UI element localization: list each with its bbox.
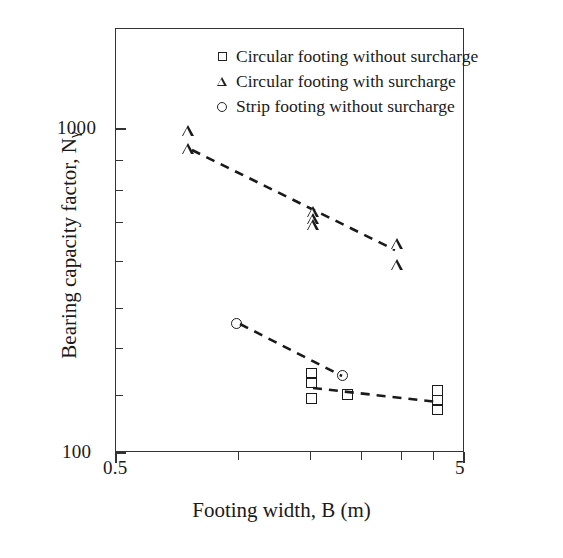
y-axis-title-subscript: γ (66, 131, 82, 138)
data-point-square (306, 377, 317, 388)
y-tick-minor-800 (115, 160, 123, 161)
circle-marker-icon (216, 100, 229, 113)
y-tick-minor-300 (115, 348, 123, 349)
triangle-marker-icon (216, 75, 229, 88)
x-axis-tick-label-0point5: 0.5 (103, 457, 128, 479)
data-point-square (432, 404, 443, 415)
x-axis-title: Footing width, B (m) (0, 498, 563, 523)
y-tick-minor-600 (115, 222, 123, 223)
data-point-square (306, 393, 317, 404)
data-point-circle (231, 318, 242, 329)
data-point-triangle (182, 125, 194, 136)
legend-item-strip-without-surcharge: Strip footing without surcharge (216, 94, 478, 119)
legend: Circular footing without surcharge Circu… (216, 44, 478, 119)
y-tick-minor-500 (115, 261, 123, 262)
x-tick-4point5 (433, 452, 434, 460)
legend-label: Circular footing with surcharge (236, 71, 456, 92)
x-tick-3 (361, 452, 362, 460)
figure-container: 1000 100 0.5 5 Footing width, B (m) Bear… (0, 0, 563, 558)
legend-item-circular-without-surcharge: Circular footing without surcharge (216, 44, 478, 69)
x-tick-4 (401, 452, 402, 460)
legend-item-circular-with-surcharge: Circular footing with surcharge (216, 69, 478, 94)
data-point-triangle (307, 219, 319, 230)
square-marker-icon (216, 50, 229, 63)
x-tick-2 (310, 452, 311, 460)
y-tick-minor-200 (115, 395, 123, 396)
data-point-triangle (182, 143, 194, 154)
x-tick-1 (238, 452, 239, 460)
data-point-triangle (391, 259, 403, 270)
x-axis-tick-label-5: 5 (455, 457, 465, 479)
data-point-circle (337, 370, 348, 381)
data-point-triangle (391, 238, 403, 249)
y-tick-1000 (115, 128, 126, 130)
legend-label: Circular footing without surcharge (236, 46, 478, 67)
y-tick-minor-400 (115, 308, 123, 309)
legend-label: Strip footing without surcharge (236, 96, 455, 117)
y-axis-title-text: Bearing capacity factor, N (57, 138, 81, 359)
y-axis-title: Bearing capacity factor, Nγ (57, 45, 83, 445)
data-point-square (342, 389, 353, 400)
y-tick-minor-700 (115, 190, 123, 191)
